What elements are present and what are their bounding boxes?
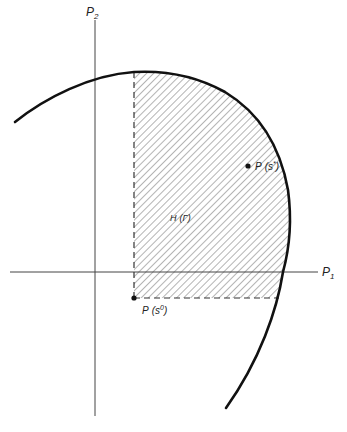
point-s-star-label: P(s*) — [255, 160, 279, 172]
point-s-zero-label: P(s0) — [142, 304, 167, 316]
payoff-diagram: P2 P1 H(Γ) P(s*) P(s0) — [0, 0, 347, 432]
point-s-star — [245, 163, 250, 168]
region-label: H(Γ) — [170, 213, 191, 223]
y-axis-label: P2 — [86, 5, 99, 21]
point-s-zero — [131, 295, 136, 300]
x-axis-label: P1 — [322, 265, 334, 281]
hatched-region — [134, 60, 304, 300]
